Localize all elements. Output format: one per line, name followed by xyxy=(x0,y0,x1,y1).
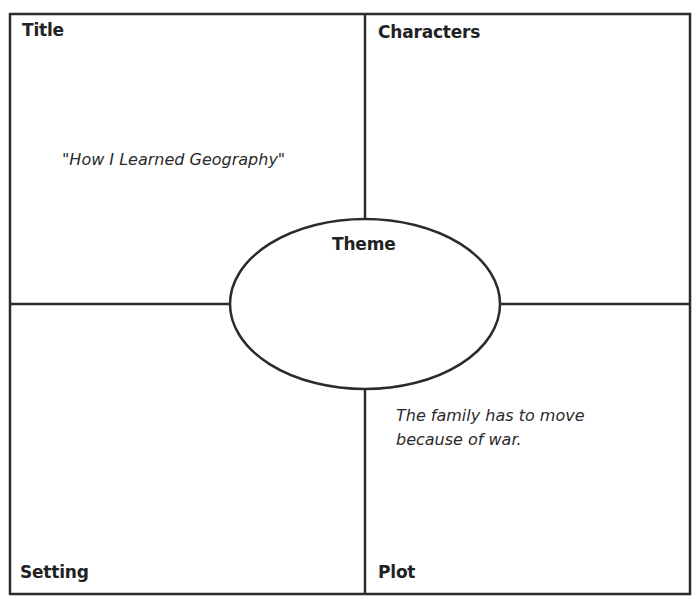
plot-content[interactable]: The family has to move because of war. xyxy=(396,404,585,452)
title-content[interactable]: "How I Learned Geography" xyxy=(62,148,285,172)
theme-label: Theme xyxy=(332,234,395,254)
theme-content[interactable] xyxy=(270,265,460,365)
setting-content[interactable] xyxy=(24,400,344,540)
characters-label: Characters xyxy=(378,22,480,42)
plot-line-2: because of war. xyxy=(396,428,585,452)
setting-label: Setting xyxy=(20,562,89,582)
plot-line-1: The family has to move xyxy=(396,404,585,428)
plot-label: Plot xyxy=(378,562,415,582)
title-label: Title xyxy=(22,20,64,40)
story-map-organizer: Title "How I Learned Geography" Characte… xyxy=(0,0,700,599)
characters-content[interactable] xyxy=(380,60,670,200)
